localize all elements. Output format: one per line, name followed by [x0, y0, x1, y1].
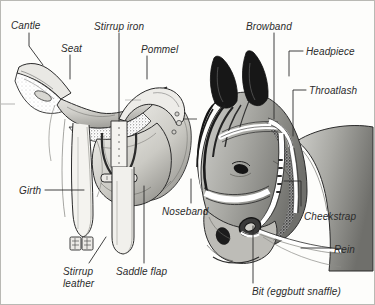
label-saddle-flap: Saddle flap — [116, 266, 167, 277]
label-cantle: Cantle — [11, 20, 41, 31]
saddle-drawing — [1, 64, 197, 254]
label-throatlash: Throatlash — [309, 85, 357, 96]
label-stirrup-leather: Stirrup leather — [63, 266, 94, 290]
label-rein: Rein — [334, 244, 355, 255]
horse-head-drawing — [197, 51, 373, 271]
label-bit: Bit (eggbutt snaffle) — [252, 286, 341, 297]
label-headpiece: Headpiece — [306, 46, 355, 57]
label-browband: Browband — [246, 21, 292, 32]
label-seat: Seat — [61, 43, 82, 54]
figure-canvas: Cantle Seat Stirrup iron Pommel Girth St… — [0, 0, 375, 305]
headpiece-leader — [289, 51, 303, 76]
label-girth: Girth — [19, 185, 41, 196]
label-noseband: Noseband — [162, 206, 208, 217]
throatlash-leader — [293, 90, 306, 136]
label-stirrup-iron: Stirrup iron — [94, 21, 144, 32]
label-pommel: Pommel — [141, 44, 178, 55]
label-cheekstrap: Cheekstrap — [304, 211, 356, 222]
cantle-leader — [29, 33, 43, 65]
